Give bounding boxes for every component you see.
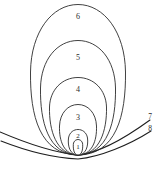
label-loop-5: 5 — [76, 54, 80, 62]
label-loop-6: 6 — [76, 13, 80, 21]
label-loop-2: 2 — [76, 133, 80, 140]
label-loop-4: 4 — [76, 86, 80, 94]
label-loop-3: 3 — [76, 114, 80, 122]
figure-canvas: 6 5 4 3 2 1 7 8 — [0, 0, 157, 170]
label-loop-1: 1 — [76, 144, 80, 151]
label-arc-8: 8 — [148, 125, 152, 133]
label-arc-7: 7 — [148, 113, 152, 121]
